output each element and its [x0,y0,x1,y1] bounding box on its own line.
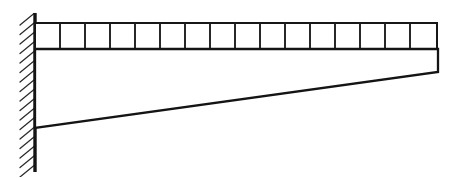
tapered-beam-outline [35,49,438,128]
load-grid-outline [35,23,437,49]
beam-diagram-figure: Tapered cantilever beam with uniformly d… [0,0,462,177]
distributed-load-grid [35,23,437,49]
hatch-mark [20,71,34,83]
diagram-canvas: Tapered cantilever beam with uniformly d… [0,0,462,177]
hatch-mark [20,147,34,159]
hatch-mark [20,99,34,111]
hatch-mark [20,14,34,26]
hatch-mark [20,52,34,64]
hatch-mark [20,80,34,92]
hatch-mark [20,166,34,178]
hatch-mark [20,42,34,54]
hatch-mark [20,90,34,102]
hatch-mark [20,33,34,45]
hatch-mark [20,156,34,168]
hatch-mark [20,118,34,130]
wall-hatching-group [20,14,34,178]
hatch-mark [20,128,34,140]
hatch-mark [20,23,34,35]
hatch-mark [20,61,34,73]
hatch-mark [20,137,34,149]
hatch-mark [20,109,34,121]
